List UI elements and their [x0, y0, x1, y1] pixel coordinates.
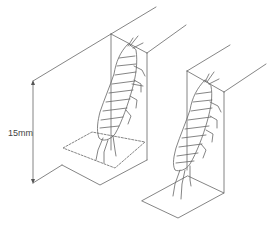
left-amphipod — [96, 36, 145, 163]
diagram-canvas — [0, 0, 276, 229]
dimension-label: 15mm — [8, 128, 33, 138]
left-box — [33, 7, 186, 185]
